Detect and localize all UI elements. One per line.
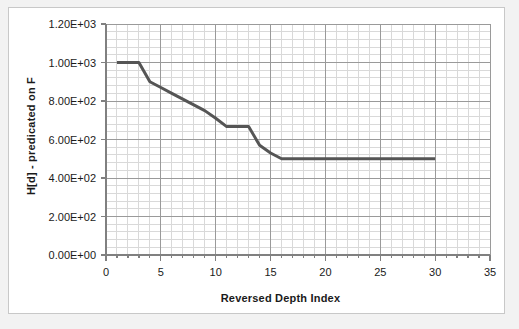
- y-tick-label: 1.00E+03: [49, 57, 96, 69]
- y-tick-label: 2.00E+02: [49, 211, 96, 223]
- y-tick-label: 4.00E+02: [49, 172, 96, 184]
- x-axis-title: Reversed Depth Index: [9, 292, 504, 304]
- x-tick-label: 25: [374, 266, 386, 278]
- y-axis-tick-labels: 0.00E+002.00E+024.00E+026.00E+028.00E+02…: [49, 18, 96, 261]
- x-tick-label: 20: [319, 266, 331, 278]
- line-chart-canvas: 0.00E+002.00E+024.00E+026.00E+028.00E+02…: [9, 8, 506, 315]
- y-tick-label: 8.00E+02: [49, 95, 96, 107]
- x-tick-label: 0: [103, 266, 109, 278]
- x-axis-tick-labels: 05101520253035: [103, 266, 496, 278]
- x-tick-label: 35: [484, 266, 496, 278]
- chart-card: 0.00E+002.00E+024.00E+026.00E+028.00E+02…: [8, 7, 505, 314]
- data-series-group: [117, 63, 435, 159]
- y-tick-label: 1.20E+03: [49, 18, 96, 30]
- data-series-line: [117, 63, 435, 159]
- x-tick-label: 15: [264, 266, 276, 278]
- y-tick-label: 6.00E+02: [49, 134, 96, 146]
- x-tick-label: 5: [158, 266, 164, 278]
- y-tick-label: 0.00E+00: [49, 249, 96, 261]
- x-tick-label: 30: [429, 266, 441, 278]
- x-tick-label: 10: [210, 266, 222, 278]
- axis-tick-marks: [101, 24, 490, 261]
- y-axis-title: H[d] - predicated on F: [25, 21, 37, 251]
- major-gridlines: [106, 24, 490, 255]
- figure-root: 0.00E+002.00E+024.00E+026.00E+028.00E+02…: [0, 0, 519, 329]
